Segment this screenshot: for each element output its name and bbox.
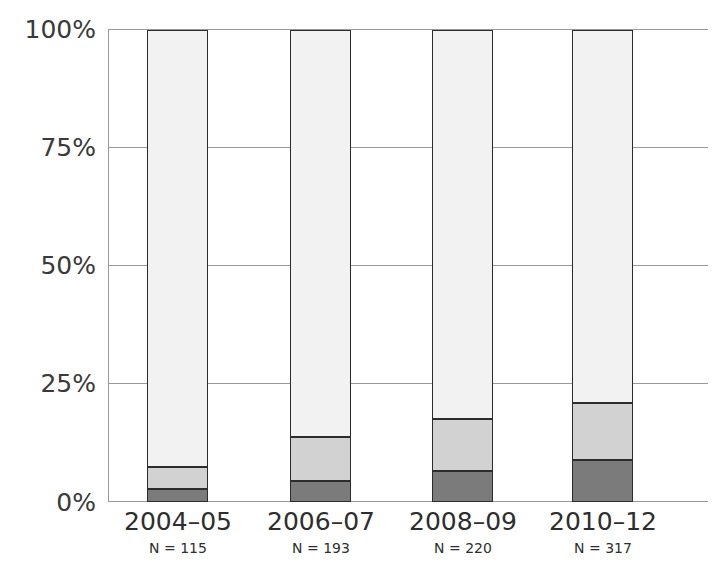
plot-area [108, 29, 708, 502]
x-axis-group-2: 2008–09 N = 220 [383, 508, 543, 556]
bar-segment-middle [147, 467, 208, 490]
x-axis-sample-size: N = 193 [241, 540, 401, 556]
bar-segment-bottom [432, 471, 493, 502]
bar-segment-bottom [572, 460, 633, 502]
bars-layer [108, 29, 708, 502]
bar-2006-07[interactable] [290, 29, 351, 502]
x-axis-category-label: 2008–09 [383, 508, 543, 537]
bar-segment-bottom [147, 489, 208, 502]
bar-segment-top [572, 30, 633, 403]
x-axis-sample-size: N = 115 [98, 540, 258, 556]
bar-2010-12[interactable] [572, 29, 633, 502]
bar-segment-bottom [290, 481, 351, 502]
x-axis-category-label: 2004–05 [98, 508, 258, 537]
y-tick-label-0: 0% [8, 490, 96, 515]
x-axis-group-1: 2006–07 N = 193 [241, 508, 401, 556]
x-axis-sample-size: N = 317 [523, 540, 683, 556]
x-axis-group-3: 2010–12 N = 317 [523, 508, 683, 556]
bar-segment-top [147, 30, 208, 467]
x-axis-category-label: 2006–07 [241, 508, 401, 537]
bar-2004-05[interactable] [147, 29, 208, 502]
y-tick-label-50: 50% [8, 253, 96, 278]
x-axis: 2004–05 N = 115 2006–07 N = 193 2008–09 … [108, 508, 708, 578]
bar-segment-middle [290, 437, 351, 481]
x-axis-sample-size: N = 220 [383, 540, 543, 556]
bar-segment-top [432, 30, 493, 419]
y-tick-label-75: 75% [8, 135, 96, 160]
stacked-bar-chart: 100% 75% 50% 25% 0% [0, 0, 713, 587]
x-axis-group-0: 2004–05 N = 115 [98, 508, 258, 556]
bar-segment-middle [432, 419, 493, 471]
y-axis: 100% 75% 50% 25% 0% [0, 0, 96, 587]
bar-segment-middle [572, 403, 633, 460]
bar-2008-09[interactable] [432, 29, 493, 502]
bar-segment-top [290, 30, 351, 437]
y-tick-label-100: 100% [8, 17, 96, 42]
x-axis-category-label: 2010–12 [523, 508, 683, 537]
y-tick-label-25: 25% [8, 371, 96, 396]
